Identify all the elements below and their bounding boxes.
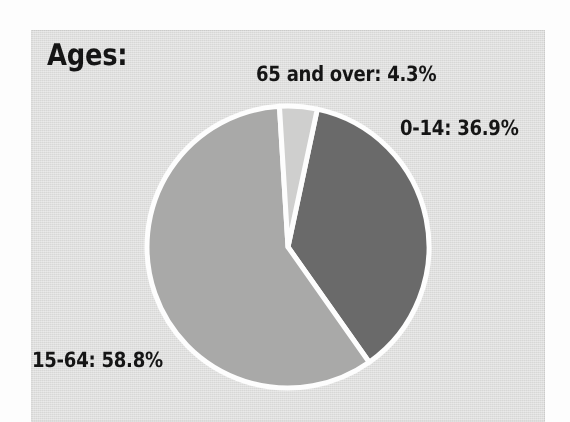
slice-label-15-64: 15-64: 58.8%: [32, 348, 163, 372]
figure-root: Ages: 65 and over: 4.3% 0-14: 36.9% 15-6…: [0, 0, 570, 422]
slice-label-65-and-over: 65 and over: 4.3%: [256, 62, 436, 86]
page-title: Ages:: [47, 38, 127, 73]
pie-slices: [147, 106, 429, 388]
slice-label-0-14: 0-14: 36.9%: [400, 116, 519, 140]
